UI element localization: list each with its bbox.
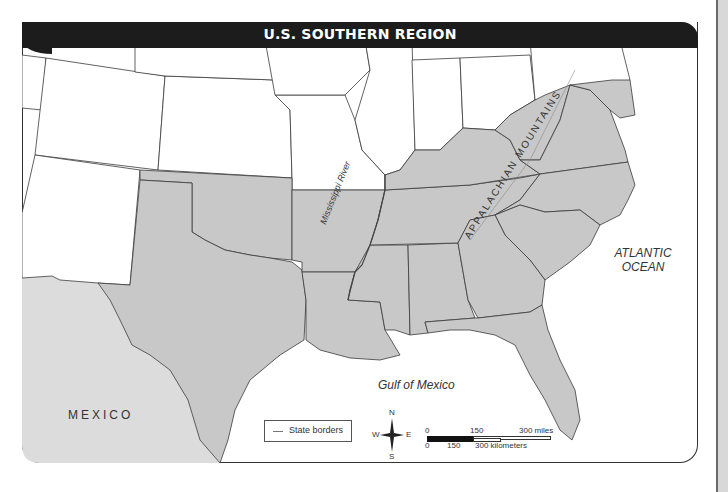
scale-km-0: 0	[425, 441, 429, 450]
state-colorado	[35, 58, 165, 170]
legend: State borders	[264, 420, 352, 442]
compass-e: E	[406, 430, 411, 439]
atlantic-line1: ATLANTIC	[608, 246, 678, 260]
scale-miles-0: 0	[425, 426, 429, 435]
state-border-legend-symbol	[273, 431, 283, 432]
map-title: U.S. SOUTHERN REGION	[22, 26, 698, 42]
mexico-label: MEXICO	[68, 408, 133, 422]
scale-bar: 0 150 300 miles 0 150 300 kilometers	[425, 428, 555, 452]
state-florida	[425, 305, 580, 440]
state-kansas	[158, 76, 292, 178]
compass-s: S	[389, 452, 394, 461]
compass-rose: N S W E	[372, 410, 412, 460]
title-bar: U.S. SOUTHERN REGION	[22, 22, 698, 48]
compass-n: N	[389, 408, 395, 417]
atlantic-ocean-label: ATLANTIC OCEAN	[608, 246, 678, 274]
gulf-of-mexico-label: Gulf of Mexico	[378, 378, 455, 392]
scale-km-300: 300 kilometers	[475, 441, 527, 450]
state-new-mexico	[22, 155, 140, 285]
compass-w: W	[372, 430, 380, 439]
scale-miles-150: 150	[470, 426, 483, 435]
legend-label: State borders	[289, 425, 343, 435]
scale-miles-300: 300 miles	[519, 426, 553, 435]
scale-km-150: 150	[447, 441, 460, 450]
atlantic-line2: OCEAN	[608, 260, 678, 274]
state-iowa	[265, 40, 370, 95]
